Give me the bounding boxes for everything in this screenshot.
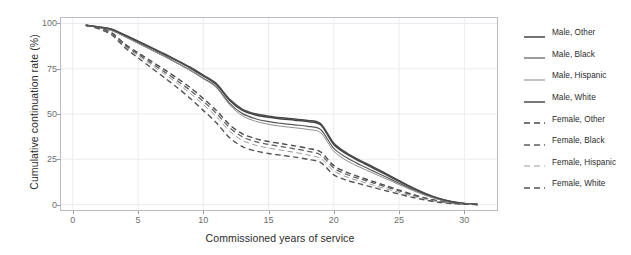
legend-swatch-line-icon [524, 28, 545, 38]
series-line-female-other [86, 25, 478, 204]
legend-item[interactable]: Female, Other [524, 108, 631, 130]
y-tick-label: 50 [31, 109, 57, 119]
legend-label: Female, White [552, 179, 605, 188]
x-tick-mark [269, 211, 270, 214]
x-tick-label: 10 [188, 215, 218, 225]
x-tick-mark [399, 211, 400, 214]
plot-area [60, 17, 498, 211]
legend-item[interactable]: Male, Black [524, 44, 631, 66]
x-tick-mark [203, 211, 204, 214]
chart-figure: Cumulative continuation rate (%) Commiss… [0, 0, 631, 255]
legend-label: Female, Hispanic [552, 158, 616, 167]
legend-swatch-line-icon [524, 179, 545, 189]
x-tick-mark [73, 211, 74, 214]
legend-item[interactable]: Male, Other [524, 22, 631, 44]
x-axis-label: Commissioned years of service [62, 232, 498, 244]
x-tick-mark [464, 211, 465, 214]
legend-item[interactable]: Male, White [524, 87, 631, 109]
x-tick-label: 15 [254, 215, 284, 225]
data-series-group [86, 25, 478, 204]
legend-swatch-line-icon [524, 93, 545, 103]
y-tick-label: 25 [31, 154, 57, 164]
chart-canvas [61, 18, 497, 210]
legend-swatch-line-icon [524, 114, 545, 124]
legend-swatch-line-icon [524, 136, 545, 146]
series-line-male-white [86, 25, 478, 204]
legend-swatch-line-icon [524, 71, 545, 81]
legend-label: Female, Black [552, 136, 605, 145]
x-tick-label: 30 [449, 215, 479, 225]
x-tick-mark [334, 211, 335, 214]
x-tick-label: 5 [123, 215, 153, 225]
legend-item[interactable]: Female, Hispanic [524, 152, 631, 174]
legend-label: Male, White [552, 93, 596, 102]
legend-swatch-line-icon [524, 49, 545, 59]
x-tick-label: 20 [319, 215, 349, 225]
series-line-female-black [86, 25, 478, 204]
legend-item[interactable]: Female, Black [524, 130, 631, 152]
legend-item[interactable]: Male, Hispanic [524, 65, 631, 87]
series-line-male-hispanic [86, 25, 478, 204]
legend-label: Male, Other [552, 28, 595, 37]
legend-label: Female, Other [552, 115, 605, 124]
x-tick-label: 0 [58, 215, 88, 225]
y-tick-label: 100 [31, 18, 57, 28]
chart-legend: Male, OtherMale, BlackMale, HispanicMale… [524, 22, 631, 195]
x-tick-mark [138, 211, 139, 214]
legend-label: Male, Black [552, 50, 595, 59]
legend-label: Male, Hispanic [552, 71, 606, 80]
x-tick-label: 25 [384, 215, 414, 225]
series-line-female-hispanic [86, 25, 478, 204]
y-tick-label: 0 [31, 200, 57, 210]
legend-swatch-line-icon [524, 157, 545, 167]
series-line-male-other [86, 25, 478, 204]
series-line-male-black [86, 25, 478, 204]
y-tick-label: 75 [31, 64, 57, 74]
legend-item[interactable]: Female, White [524, 173, 631, 195]
series-line-female-white [86, 25, 478, 204]
